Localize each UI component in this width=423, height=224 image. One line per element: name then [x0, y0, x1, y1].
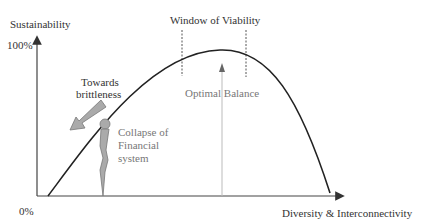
- optimal-arrow-icon: [219, 63, 225, 72]
- collapse-label-3: system: [118, 152, 149, 165]
- y-axis-label: Sustainability: [10, 18, 71, 31]
- brittleness-label-2: brittleness: [76, 88, 121, 101]
- collapse-label-1: Collapse of: [118, 126, 168, 139]
- collapse-lightning-icon: [100, 129, 109, 196]
- diagram-canvas: [0, 0, 423, 224]
- optimal-balance-label: Optimal Balance: [185, 87, 259, 100]
- window-of-viability-label: Window of Viability: [170, 14, 260, 27]
- x-axis-label: Diversity & Interconnectivity: [282, 207, 412, 220]
- y-top-tick: 100%: [7, 39, 33, 52]
- y-bottom-tick: 0%: [19, 205, 34, 218]
- collapse-head-icon: [100, 119, 110, 129]
- collapse-label-2: Financial: [118, 139, 159, 152]
- sustainability-curve: [48, 50, 330, 196]
